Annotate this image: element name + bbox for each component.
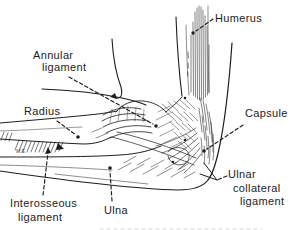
interosseous-membrane-hatching: [1, 132, 64, 152]
label-ulnar-collateral-ligament: Ulnar collateral ligament: [228, 168, 284, 209]
annular-leader-dot: [154, 124, 158, 128]
leader-lines: [43, 19, 243, 201]
ulna-leader-line: [110, 171, 112, 201]
interosseous-leader-line: [43, 153, 48, 195]
ulna-shaft-texture: [92, 128, 195, 178]
humerus-leader-dot: [191, 31, 194, 34]
ulnar-collateral-leader-line: [217, 176, 227, 180]
label-capsule-text: Capsule: [245, 107, 288, 119]
humerus-leader-line: [196, 19, 213, 31]
label-radius-text: Radius: [24, 105, 60, 117]
radius-leader-dot: [76, 135, 80, 139]
humerus-bone: [166, 6, 209, 112]
label-ucl-line1: Ulnar: [228, 168, 284, 182]
label-humerus: Humerus: [215, 12, 262, 24]
label-interosseous-line1: Interosseous: [10, 196, 77, 210]
label-capsule: Capsule: [245, 107, 288, 119]
capsule-leader-dot: [202, 149, 206, 153]
label-humerus-text: Humerus: [215, 12, 262, 24]
label-annular-line1: Annular: [33, 49, 86, 61]
label-annular-ligament: Annular ligament: [33, 49, 86, 73]
label-annular-line2: ligament: [42, 61, 86, 73]
elbow-ligament-figure: Humerus Annular ligament Radius Capsule …: [0, 0, 292, 230]
label-interosseous-ligament: Interosseous ligament: [10, 196, 77, 224]
label-interosseous-line2: ligament: [18, 210, 77, 224]
label-ulna: Ulna: [104, 204, 128, 216]
label-ucl-line2: collateral: [233, 182, 284, 196]
capsule-hatching: [156, 100, 198, 149]
label-radius: Radius: [24, 105, 60, 117]
artist-initials: M.E.: [16, 148, 26, 154]
label-ulna-text: Ulna: [104, 204, 128, 216]
ulna-leader-dot: [108, 166, 112, 170]
interosseous-arrowhead: [45, 147, 51, 154]
label-ucl-line3: ligament: [240, 195, 284, 209]
